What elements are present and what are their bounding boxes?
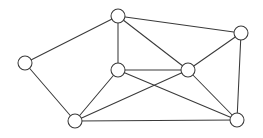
graph-edge-top-right-to-right-center xyxy=(188,33,241,70)
graph-vertex-bottom-right xyxy=(230,113,244,127)
graph-edge-right-center-to-bottom-left xyxy=(75,70,188,121)
graph-canvas xyxy=(0,0,263,138)
graph-vertex-left xyxy=(18,56,32,70)
graph-edge-left-center-to-bottom-right xyxy=(118,70,237,120)
graph-edge-left-to-bottom-left xyxy=(25,63,75,121)
graph-vertex-right-center xyxy=(181,63,195,77)
graph-vertex-top-right xyxy=(234,26,248,40)
graph-vertex-top xyxy=(111,9,125,23)
graph-edge-right-center-to-bottom-right xyxy=(188,70,237,120)
graph-vertex-bottom-left xyxy=(68,114,82,128)
graph-diagram xyxy=(0,0,263,138)
graph-edge-left-center-to-bottom-left xyxy=(75,70,118,121)
graph-edge-bottom-left-to-bottom-right xyxy=(75,120,237,121)
graph-edge-top-right-to-bottom-right xyxy=(237,33,241,120)
graph-edge-left-to-top xyxy=(25,16,118,63)
edge-layer xyxy=(25,16,241,121)
graph-vertex-left-center xyxy=(111,63,125,77)
